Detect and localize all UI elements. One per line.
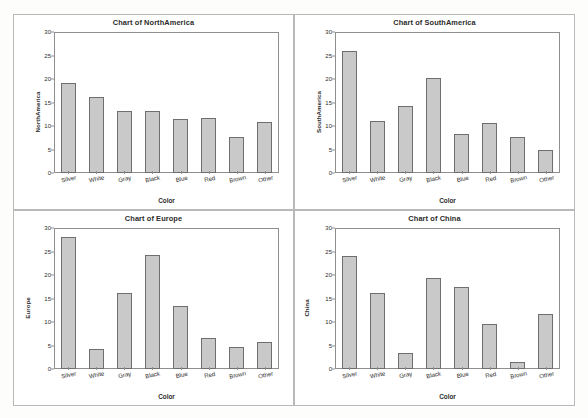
x-tick: Silver <box>335 173 363 189</box>
bar-slot <box>448 32 476 173</box>
plot-area <box>54 32 279 173</box>
x-tick: Brown <box>223 369 251 385</box>
x-tick: Silver <box>54 369 82 385</box>
bar-series <box>54 32 279 173</box>
x-tick-label: Red <box>484 371 496 379</box>
y-tick-label: 10 <box>325 123 332 129</box>
y-tick-label: 15 <box>325 296 332 302</box>
bar-series <box>335 32 560 173</box>
y-tick-label: 20 <box>44 76 51 82</box>
x-tick-label: Blue <box>175 371 188 379</box>
chart-panel-china: Chart of ChinaChina051015202530SilverWhi… <box>294 210 575 406</box>
x-axis-label: Color <box>54 197 279 204</box>
x-tick-label: White <box>370 370 386 379</box>
x-tick: Black <box>138 369 166 385</box>
x-tick-mark <box>124 171 125 174</box>
x-tick-label: Blue <box>456 371 469 379</box>
x-axis-label: Color <box>335 393 560 400</box>
x-tick-label: Brown <box>228 174 246 183</box>
x-tick-mark <box>265 367 266 370</box>
x-tick: Blue <box>448 173 476 189</box>
bar-other <box>257 342 272 369</box>
x-tick: Red <box>195 173 223 189</box>
bar-slot <box>335 32 363 173</box>
y-tick-label: 15 <box>44 100 51 106</box>
bar-slot <box>195 32 223 173</box>
x-tick: Black <box>419 369 447 385</box>
x-tick-label: Other <box>539 174 555 183</box>
bar-gray <box>117 293 132 369</box>
x-tick-mark <box>237 367 238 370</box>
bar-black <box>426 78 441 173</box>
bar-white <box>89 97 104 173</box>
x-tick-mark <box>518 171 519 174</box>
x-tick: Brown <box>223 173 251 189</box>
x-tick: Red <box>476 173 504 189</box>
bar-blue <box>173 306 188 369</box>
bar-slot <box>251 228 279 369</box>
bar-black <box>426 278 441 369</box>
bar-black <box>145 255 160 369</box>
chart-panel-europe: Chart of EuropeEurope051015202530SilverW… <box>13 210 294 406</box>
bar-gray <box>117 111 132 173</box>
x-tick: Brown <box>504 369 532 385</box>
bar-red <box>482 123 497 173</box>
bar-slot <box>167 32 195 173</box>
y-axis-ticks: 051015202530 <box>28 32 54 173</box>
y-axis-ticks: 051015202530 <box>28 228 54 369</box>
x-tick-mark <box>518 367 519 370</box>
x-tick: White <box>82 369 110 385</box>
x-tick-label: Other <box>258 370 274 379</box>
y-tick-label: 10 <box>325 319 332 325</box>
chart-title: Chart of Europe <box>14 214 293 223</box>
bar-white <box>370 293 385 369</box>
plot-area <box>335 32 560 173</box>
x-tick-mark <box>462 367 463 370</box>
x-tick-mark <box>237 171 238 174</box>
x-tick-mark <box>462 171 463 174</box>
x-tick-mark <box>68 171 69 174</box>
bar-slot <box>82 228 110 369</box>
x-tick: Other <box>251 369 279 385</box>
x-tick-mark <box>209 367 210 370</box>
bar-white <box>370 121 385 173</box>
bar-slot <box>54 32 82 173</box>
x-tick-label: Other <box>539 370 555 379</box>
bar-slot <box>476 228 504 369</box>
bar-slot <box>138 32 166 173</box>
bar-brown <box>229 347 244 369</box>
x-tick: Gray <box>110 173 138 189</box>
bar-silver <box>342 51 357 173</box>
x-tick: Gray <box>391 369 419 385</box>
x-tick: Blue <box>448 369 476 385</box>
x-tick-mark <box>152 171 153 174</box>
x-tick-mark <box>124 367 125 370</box>
x-tick-mark <box>490 171 491 174</box>
x-tick-mark <box>546 367 547 370</box>
x-tick-label: White <box>370 174 386 183</box>
bar-slot <box>532 228 560 369</box>
x-tick-mark <box>490 367 491 370</box>
x-tick-label: Other <box>258 174 274 183</box>
bar-brown <box>510 137 525 173</box>
x-tick: Black <box>138 173 166 189</box>
x-tick: Red <box>195 369 223 385</box>
bar-slot <box>363 32 391 173</box>
bar-slot <box>391 228 419 369</box>
x-tick-label: Brown <box>509 370 527 379</box>
x-tick-mark <box>349 367 350 370</box>
bar-slot <box>110 32 138 173</box>
y-tick-label: 10 <box>44 319 51 325</box>
bar-red <box>201 118 216 173</box>
x-tick-label: White <box>89 370 105 379</box>
bar-slot <box>335 228 363 369</box>
x-tick-label: Silver <box>61 370 77 379</box>
x-tick: Blue <box>167 369 195 385</box>
chart-title: Chart of SouthAmerica <box>295 18 574 27</box>
bar-blue <box>173 119 188 173</box>
x-tick: Brown <box>504 173 532 189</box>
x-tick-label: White <box>89 174 105 183</box>
bar-slot <box>110 228 138 369</box>
bar-slot <box>419 32 447 173</box>
y-tick-label: 15 <box>325 100 332 106</box>
